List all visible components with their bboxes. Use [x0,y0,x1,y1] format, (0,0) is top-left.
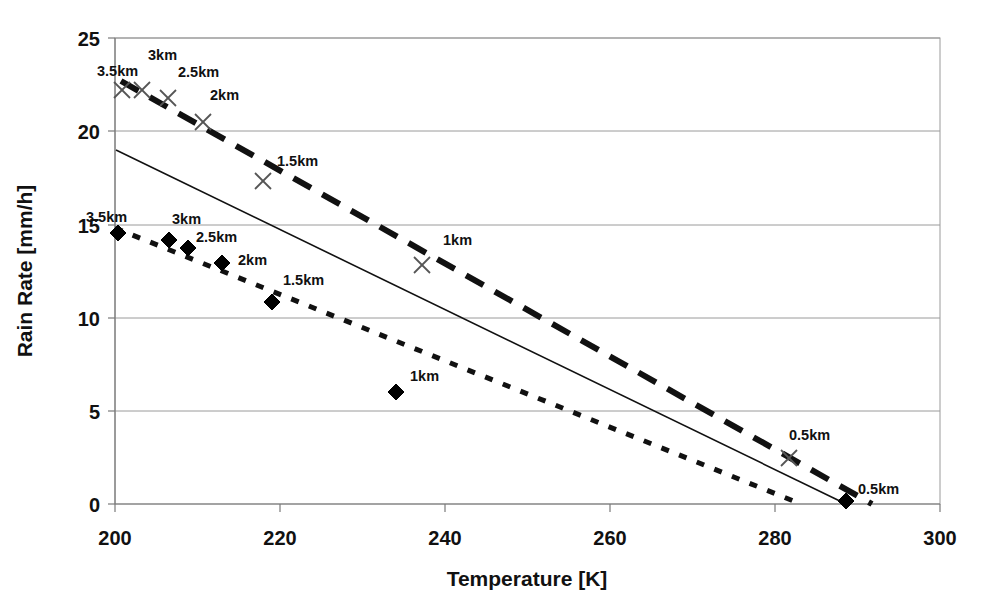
lower-series-labels: 3.5km 3km 2.5km 2km 1.5km 1km 0.5km [86,209,899,497]
upper-label-0_5km: 0.5km [789,427,830,443]
upper-label-1km: 1km [443,232,472,248]
marker-x-2km [195,114,211,130]
rain-rate-vs-temperature-chart: 25 20 15 10 5 0 200 220 240 260 280 300 … [0,0,1004,613]
x-tick-label-280: 280 [758,527,791,549]
upper-label-3km: 3km [148,47,177,63]
marker-x-2_5km [160,90,176,106]
upper-label-1_5km: 1.5km [277,153,318,169]
upper-series-markers [114,82,797,466]
x-tick-label-240: 240 [428,527,461,549]
x-axis-title: Temperature [K] [447,567,608,590]
marker-diamond-1_5km [264,294,280,310]
lower-label-3km: 3km [172,211,201,227]
x-tick-label-260: 260 [593,527,626,549]
lower-series-markers [110,225,854,509]
marker-x-1km [414,257,430,273]
y-axis-title: Rain Rate [mm/h] [13,185,36,358]
reference-trend-line [116,150,846,504]
lower-series-trend-line [115,228,801,504]
chart-canvas: 25 20 15 10 5 0 200 220 240 260 280 300 … [0,0,1004,613]
lower-label-2km: 2km [238,252,267,268]
marker-diamond-3_5km [110,225,126,241]
upper-series-trend-line [121,81,872,504]
upper-label-3_5km: 3.5km [97,63,138,79]
lower-label-3_5km: 3.5km [86,209,127,225]
upper-label-2km: 2km [210,87,239,103]
lower-label-0_5km: 0.5km [858,481,899,497]
upper-series-labels: 3.5km 3km 2.5km 2km 1.5km 1km 0.5km [97,47,830,443]
marker-diamond-2_5km [180,240,196,256]
y-tick-label-20: 20 [78,121,100,143]
y-tick-label-25: 25 [78,28,100,50]
marker-diamond-1km [388,384,404,400]
lower-label-2_5km: 2.5km [196,229,237,245]
x-tick-label-220: 220 [263,527,296,549]
upper-label-2_5km: 2.5km [178,64,219,80]
y-tick-label-10: 10 [78,308,100,330]
lower-label-1_5km: 1.5km [283,272,324,288]
lower-label-1km: 1km [410,368,439,384]
marker-diamond-3km [161,232,177,248]
marker-x-1_5km [255,173,271,189]
x-tick-label-200: 200 [98,527,131,549]
x-tick-label-300: 300 [923,527,956,549]
marker-diamond-2km [214,255,230,271]
y-tick-label-0: 0 [89,494,100,516]
y-tick-label-5: 5 [89,401,100,423]
